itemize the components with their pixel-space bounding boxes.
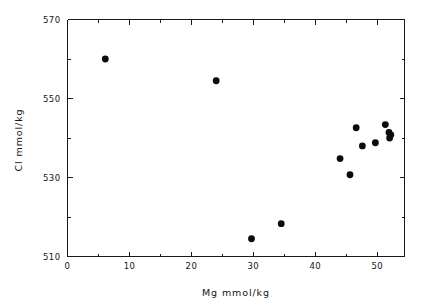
data-point [337, 155, 344, 162]
y-axis-label: Cl mmol/kg [13, 109, 24, 172]
y-axis-ticks [68, 20, 73, 257]
y-axis-tick-labels: 510530550570 [43, 15, 60, 262]
data-point [248, 235, 255, 242]
axis-frame [68, 20, 405, 257]
plot-canvas: 01020304050 510530550570 Mg mmol/kg Cl m… [0, 0, 423, 306]
data-point [213, 77, 220, 84]
x-axis-tick-labels: 01020304050 [65, 261, 383, 271]
x-tick-label: 40 [309, 261, 321, 271]
x-tick-label: 10 [124, 261, 136, 271]
y-tick-label: 570 [43, 15, 60, 25]
data-point [278, 220, 285, 227]
data-point [359, 143, 366, 150]
y-tick-label: 530 [43, 173, 60, 183]
x-tick-label: 0 [65, 261, 71, 271]
x-tick-label: 50 [371, 261, 383, 271]
y-tick-label: 510 [43, 252, 60, 262]
x-tick-label: 30 [248, 261, 260, 271]
x-axis-ticks [68, 252, 378, 257]
data-point [372, 139, 379, 146]
x-axis-label: Mg mmol/kg [202, 287, 270, 298]
data-point [353, 124, 360, 131]
data-point [386, 135, 393, 142]
data-point [347, 171, 354, 178]
y-axis-right-ticks [400, 20, 405, 257]
data-point-series [102, 56, 394, 243]
data-point [102, 56, 109, 63]
scatter-chart: 01020304050 510530550570 Mg mmol/kg Cl m… [0, 0, 423, 306]
x-tick-label: 20 [186, 261, 198, 271]
x-axis-top-ticks [68, 20, 378, 25]
y-tick-label: 550 [43, 94, 60, 104]
data-point [382, 121, 389, 128]
